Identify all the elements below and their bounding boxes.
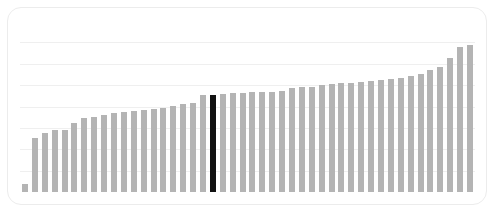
bar[interactable] <box>269 92 275 192</box>
bar[interactable] <box>408 76 414 192</box>
bar[interactable] <box>418 74 424 192</box>
bar[interactable] <box>358 82 364 192</box>
bar[interactable] <box>368 81 374 192</box>
bar[interactable] <box>81 118 87 192</box>
bar[interactable] <box>427 70 433 192</box>
bar[interactable] <box>151 109 157 192</box>
bar[interactable] <box>220 94 226 192</box>
bar[interactable] <box>398 78 404 192</box>
bar[interactable] <box>141 110 147 192</box>
bar[interactable] <box>348 83 354 192</box>
bar[interactable] <box>388 79 394 192</box>
bar[interactable] <box>319 85 325 192</box>
bar[interactable] <box>249 92 255 192</box>
bar[interactable] <box>447 58 453 192</box>
bar[interactable] <box>190 103 196 192</box>
bar[interactable] <box>131 111 137 192</box>
bar[interactable] <box>279 91 285 192</box>
bar[interactable] <box>121 112 127 192</box>
bar[interactable] <box>62 130 68 192</box>
bar[interactable] <box>160 108 166 192</box>
bar[interactable] <box>240 93 246 192</box>
bar[interactable] <box>22 184 28 192</box>
bar[interactable] <box>437 67 443 192</box>
bar[interactable] <box>329 84 335 192</box>
bar[interactable] <box>299 87 305 192</box>
bar[interactable] <box>457 47 463 192</box>
bar[interactable] <box>309 87 315 192</box>
bar[interactable] <box>101 115 107 192</box>
bar[interactable] <box>259 92 265 192</box>
bar[interactable] <box>111 113 117 192</box>
bar[interactable] <box>338 83 344 192</box>
bar[interactable] <box>52 130 58 192</box>
bar-highlighted[interactable] <box>210 95 216 192</box>
bar[interactable] <box>32 138 38 192</box>
screenshot-root <box>0 0 494 213</box>
bar[interactable] <box>230 93 236 192</box>
bar[interactable] <box>378 80 384 192</box>
chart-card <box>7 7 487 205</box>
bar[interactable] <box>170 106 176 192</box>
bar[interactable] <box>289 88 295 192</box>
bars-group <box>20 21 475 192</box>
bar[interactable] <box>200 95 206 192</box>
bar-chart-plot-area <box>20 21 475 192</box>
bar[interactable] <box>42 133 48 192</box>
bar[interactable] <box>91 117 97 192</box>
bar[interactable] <box>71 123 77 192</box>
bar[interactable] <box>180 104 186 192</box>
bar[interactable] <box>467 45 473 192</box>
